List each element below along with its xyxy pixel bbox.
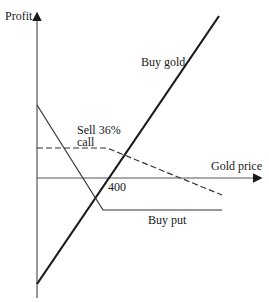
buy-gold-label: Buy gold: [141, 56, 185, 68]
payoff-chart: [0, 0, 269, 303]
x-tick-400: 400: [108, 181, 126, 193]
sell-call-line: [37, 148, 222, 195]
y-axis-label: Profit: [5, 10, 32, 22]
x-axis-label: Gold price: [211, 160, 262, 172]
buy-put-label: Buy put: [148, 214, 186, 226]
sell-call-label-2: call: [77, 136, 94, 148]
buy-gold-line: [37, 16, 219, 284]
